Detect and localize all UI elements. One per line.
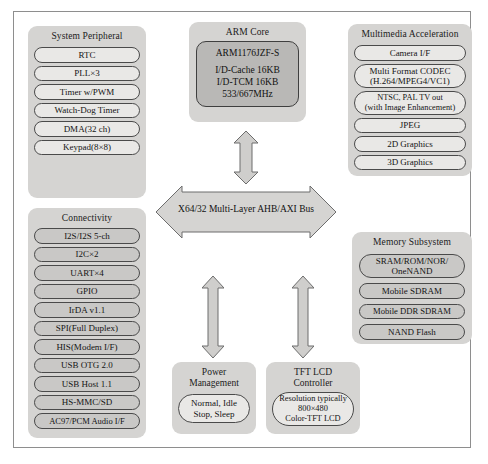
connectivity-items: I2S/I2S 5-ch I2C×2 UART×4 GPIO IrDA v1.1… bbox=[28, 224, 146, 434]
item-watch-dog-timer[interactable]: Watch-Dog Timer bbox=[34, 103, 140, 119]
item-jpeg[interactable]: JPEG bbox=[354, 118, 466, 134]
power-modes-line1: Normal, Idle bbox=[181, 398, 247, 409]
system-peripheral-items: RTC PLL×3 Timer w/PWM Watch-Dog Timer DM… bbox=[28, 42, 146, 161]
item-i2c[interactable]: I2C×2 bbox=[34, 247, 140, 263]
power-management-title-line1: Power bbox=[172, 367, 256, 378]
item-uart[interactable]: UART×4 bbox=[34, 265, 140, 281]
item-ac97-pcm-audio[interactable]: AC97/PCM Audio I/F bbox=[34, 413, 140, 429]
panel-power-management: Power Management Normal, Idle Stop, Slee… bbox=[172, 362, 256, 434]
item-ntsc-pal-tv-out[interactable]: NTSC, PAL TV out (with Image Enhancement… bbox=[354, 91, 466, 115]
group-title-memory-subsystem: Memory Subsystem bbox=[352, 232, 472, 248]
item-3d-graphics[interactable]: 3D Graphics bbox=[354, 155, 466, 171]
soc-block-diagram: System Peripheral RTC PLL×3 Timer w/PWM … bbox=[0, 0, 488, 464]
item-multi-format-codec[interactable]: Multi Format CODEC (H.264/MPEG4/VC1) bbox=[354, 64, 466, 88]
panel-title-power-management: Power Management bbox=[172, 362, 256, 389]
arm-core-spec-clock: 533/667MHz bbox=[201, 88, 294, 100]
arm-core-spec-cache: I/D-Cache 16KB bbox=[201, 64, 294, 76]
item-2d-graphics[interactable]: 2D Graphics bbox=[354, 136, 466, 152]
item-spi[interactable]: SPI(Full Duplex) bbox=[34, 321, 140, 337]
panel-tft-lcd-controller: TFT LCD Controller Resolution typically … bbox=[266, 362, 360, 434]
group-title-arm-core: ARM Core bbox=[189, 22, 306, 38]
item-irda[interactable]: IrDA v1.1 bbox=[34, 302, 140, 318]
item-pll[interactable]: PLL×3 bbox=[34, 66, 140, 82]
item-keypad[interactable]: Keypad(8×8) bbox=[34, 140, 140, 156]
group-arm-core: ARM Core ARM1176JZF-S I/D-Cache 16KB I/D… bbox=[189, 22, 306, 122]
arm-core-spec-tcm: I/D-TCM 16KB bbox=[201, 76, 294, 88]
item-usb-host[interactable]: USB Host 1.1 bbox=[34, 376, 140, 392]
item-mobile-ddr-sdram[interactable]: Mobile DDR SDRAM bbox=[359, 304, 465, 320]
arm-core-box[interactable]: ARM1176JZF-S I/D-Cache 16KB I/D-TCM 16KB… bbox=[196, 41, 299, 107]
group-connectivity: Connectivity I2S/I2S 5-ch I2C×2 UART×4 G… bbox=[28, 208, 146, 438]
arrow-arm-core-to-bus bbox=[234, 131, 258, 184]
tft-lcd-res-line3: Color-TFT LCD bbox=[274, 414, 352, 424]
panel-title-tft-lcd-controller: TFT LCD Controller bbox=[266, 362, 360, 389]
group-title-system-peripheral: System Peripheral bbox=[28, 26, 146, 42]
bus-label: X64/32 Multi-Layer AHB/AXI Bus bbox=[156, 203, 336, 215]
group-memory-subsystem: Memory Subsystem SRAM/ROM/NOR/ OneNAND M… bbox=[352, 232, 472, 344]
item-his-modem[interactable]: HIS(Modem I/F) bbox=[34, 339, 140, 355]
arrow-bus-to-tft-lcd-controller bbox=[292, 276, 314, 358]
item-nand-flash[interactable]: NAND Flash bbox=[359, 324, 465, 340]
tft-lcd-res-line1: Resolution typically bbox=[274, 394, 352, 404]
memory-items: SRAM/ROM/NOR/ OneNAND Mobile SDRAM Mobil… bbox=[352, 248, 472, 347]
item-usb-otg[interactable]: USB OTG 2.0 bbox=[34, 358, 140, 374]
group-title-multimedia-acceleration: Multimedia Acceleration bbox=[348, 24, 472, 40]
tft-lcd-title-line1: TFT LCD bbox=[266, 367, 360, 378]
item-tft-lcd-resolution[interactable]: Resolution typically 800×480 Color-TFT L… bbox=[272, 392, 354, 426]
tft-lcd-res-line2: 800×480 bbox=[274, 404, 352, 414]
group-system-peripheral: System Peripheral RTC PLL×3 Timer w/PWM … bbox=[28, 26, 146, 198]
arrow-bus-to-power-management bbox=[202, 276, 224, 358]
item-hs-mmc-sd[interactable]: HS-MMC/SD bbox=[34, 395, 140, 411]
group-multimedia-acceleration: Multimedia Acceleration Camera I/F Multi… bbox=[348, 24, 472, 176]
item-i2s[interactable]: I2S/I2S 5-ch bbox=[34, 228, 140, 244]
item-sram-rom-nor-onenand[interactable]: SRAM/ROM/NOR/ OneNAND bbox=[359, 254, 465, 278]
item-mobile-sdram[interactable]: Mobile SDRAM bbox=[359, 283, 465, 299]
item-timer-pwm[interactable]: Timer w/PWM bbox=[34, 84, 140, 100]
power-management-title-line2: Management bbox=[172, 378, 256, 389]
item-power-modes[interactable]: Normal, Idle Stop, Sleep bbox=[178, 394, 250, 423]
power-modes-line2: Stop, Sleep bbox=[181, 409, 247, 420]
group-title-connectivity: Connectivity bbox=[28, 208, 146, 224]
item-dma[interactable]: DMA(32 ch) bbox=[34, 121, 140, 137]
multimedia-items: Camera I/F Multi Format CODEC (H.264/MPE… bbox=[348, 40, 472, 176]
item-rtc[interactable]: RTC bbox=[34, 47, 140, 63]
tft-lcd-title-line2: Controller bbox=[266, 378, 360, 389]
item-gpio[interactable]: GPIO bbox=[34, 284, 140, 300]
item-camera-if[interactable]: Camera I/F bbox=[354, 45, 466, 61]
arm-core-name: ARM1176JZF-S bbox=[201, 47, 294, 59]
arm-core-items: ARM1176JZF-S I/D-Cache 16KB I/D-TCM 16KB… bbox=[189, 38, 306, 114]
